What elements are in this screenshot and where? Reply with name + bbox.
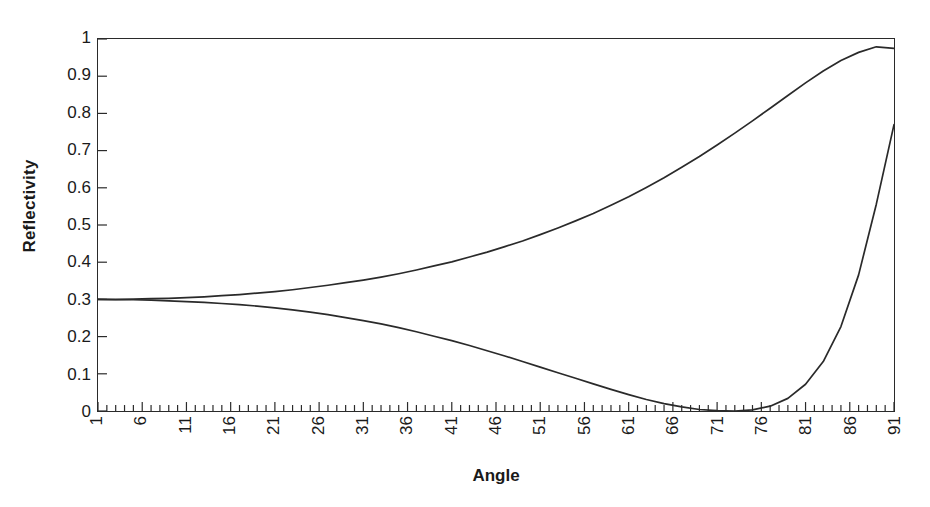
data-series-group <box>98 47 894 411</box>
y-tick-label: 0.2 <box>45 327 91 347</box>
y-axis-tick-labels: 00.10.20.30.40.50.60.70.80.91 <box>39 0 91 507</box>
y-axis-ticks <box>98 39 107 411</box>
series-line-s-polarized <box>98 47 894 300</box>
y-tick-label: 0.7 <box>45 140 91 160</box>
x-tick-label: 71 <box>708 416 728 435</box>
y-tick-label: 0.5 <box>45 215 91 235</box>
y-tick-label: 0.6 <box>45 178 91 198</box>
x-tick-label: 26 <box>309 416 329 435</box>
series-line-p-polarized <box>98 125 894 411</box>
x-tick-label: 91 <box>885 416 905 435</box>
y-tick-label: 0.9 <box>45 65 91 85</box>
y-axis-title-label: Reflectivity <box>20 159 40 252</box>
x-tick-label: 81 <box>796 416 816 435</box>
y-tick-label: 0.3 <box>45 290 91 310</box>
plot-area <box>97 38 895 412</box>
y-tick-label: 0 <box>45 402 91 422</box>
x-tick-label: 56 <box>575 416 595 435</box>
x-tick-label: 51 <box>530 416 550 435</box>
x-tick-label: 6 <box>131 416 151 425</box>
x-tick-label: 66 <box>663 416 683 435</box>
y-tick-label: 0.1 <box>45 365 91 385</box>
x-tick-label: 76 <box>752 416 772 435</box>
x-tick-label: 36 <box>397 416 417 435</box>
x-tick-label: 11 <box>176 416 196 434</box>
x-tick-label: 31 <box>353 416 373 435</box>
y-tick-label: 0.8 <box>45 103 91 123</box>
x-axis-title: Angle <box>97 466 895 486</box>
reflectivity-chart: Reflectivity 00.10.20.30.40.50.60.70.80.… <box>0 0 930 507</box>
x-tick-label: 1 <box>87 416 107 425</box>
plot-svg <box>98 39 894 411</box>
x-tick-label: 41 <box>442 416 462 435</box>
x-tick-label: 61 <box>619 416 639 435</box>
x-tick-label: 21 <box>264 416 284 435</box>
y-tick-label: 0.4 <box>45 252 91 272</box>
x-tick-label: 86 <box>841 416 861 435</box>
x-axis-tick-labels: 161116212631364146515661667176818691 <box>97 412 895 474</box>
x-tick-label: 46 <box>486 416 506 435</box>
x-tick-label: 16 <box>220 416 240 435</box>
y-tick-label: 1 <box>45 28 91 48</box>
